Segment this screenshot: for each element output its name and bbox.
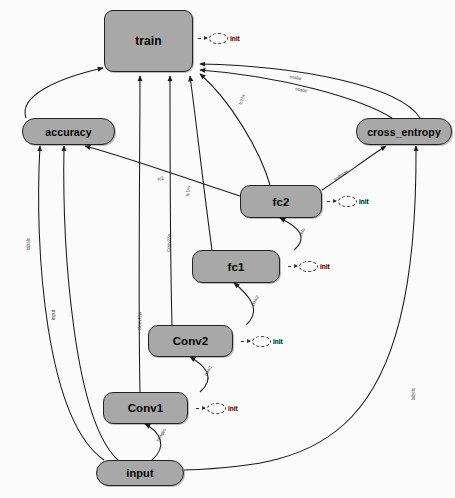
init-node-label: init bbox=[228, 405, 238, 412]
init-node-init-conv1[interactable]: init bbox=[196, 403, 238, 414]
edge-label-lbl-conv1-train: Conv1/w bbox=[137, 312, 143, 330]
graph-node-fc2[interactable]: fc2 bbox=[240, 185, 322, 218]
graph-node-label: fc1 bbox=[228, 261, 245, 273]
init-node-init-train[interactable]: init bbox=[198, 33, 240, 44]
init-arrow-icon bbox=[196, 408, 205, 409]
init-ellipse-icon bbox=[207, 403, 226, 414]
init-node-init-conv2[interactable]: init bbox=[241, 336, 283, 347]
init-ellipse-icon bbox=[299, 261, 318, 272]
init-node-label: init bbox=[230, 35, 240, 42]
init-arrow-icon bbox=[241, 341, 250, 342]
init-node-label: init bbox=[320, 263, 330, 270]
graph-node-input[interactable]: input bbox=[96, 460, 184, 486]
graph-node-label: Conv2 bbox=[173, 335, 209, 347]
graph-node-label: cross_entropy bbox=[367, 126, 441, 138]
graph-edges-layer bbox=[0, 0, 455, 498]
computation-graph-canvas: trainaccuracycross_entropyfc2fc1Conv2Con… bbox=[0, 0, 455, 498]
graph-edge bbox=[190, 76, 212, 250]
init-node-label: init bbox=[273, 338, 283, 345]
graph-node-label: fc2 bbox=[273, 196, 290, 208]
init-node-init-fc1[interactable]: init bbox=[288, 261, 330, 272]
graph-node-label: accuracy bbox=[45, 126, 91, 138]
init-arrow-icon bbox=[327, 201, 336, 202]
graph-node-Conv2[interactable]: Conv2 bbox=[148, 325, 233, 357]
graph-node-cross_entropy[interactable]: cross_entropy bbox=[356, 118, 452, 145]
init-ellipse-icon bbox=[209, 33, 228, 44]
graph-edge bbox=[200, 64, 420, 118]
edge-label-lbl-input-acc2: input bbox=[51, 310, 56, 320]
edge-label-lbl-input-ce: labels bbox=[411, 388, 416, 400]
graph-node-label: train bbox=[135, 34, 162, 48]
init-node-init-fc2[interactable]: init bbox=[327, 196, 369, 207]
graph-node-label: input bbox=[126, 467, 153, 479]
graph-edge bbox=[170, 76, 172, 325]
graph-node-accuracy[interactable]: accuracy bbox=[22, 118, 115, 145]
graph-node-Conv1[interactable]: Conv1 bbox=[103, 392, 188, 424]
graph-edge bbox=[200, 74, 270, 185]
graph-node-train[interactable]: train bbox=[104, 10, 193, 72]
graph-edge bbox=[39, 146, 104, 460]
graph-edge bbox=[25, 68, 103, 118]
graph-node-fc1[interactable]: fc1 bbox=[192, 250, 280, 283]
init-ellipse-icon bbox=[252, 336, 271, 347]
init-ellipse-icon bbox=[338, 196, 357, 207]
init-arrow-icon bbox=[198, 38, 207, 39]
init-arrow-icon bbox=[288, 266, 297, 267]
graph-edge bbox=[139, 76, 140, 392]
edge-label-lbl-conv2-train: Conv2/w bbox=[166, 234, 172, 252]
graph-edge bbox=[85, 146, 240, 196]
init-node-label: init bbox=[359, 198, 369, 205]
graph-edge bbox=[322, 146, 386, 190]
graph-node-label: Conv1 bbox=[128, 402, 164, 414]
edge-label-lbl-input-acc1: labels bbox=[26, 238, 31, 250]
